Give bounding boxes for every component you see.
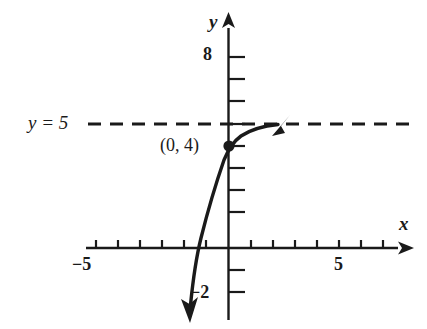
graph-figure: y = 5 (0, 4) y x 8 −2 −5 5 <box>0 0 427 329</box>
point-marker-0-4 <box>223 140 234 151</box>
exponential-curve <box>191 125 279 306</box>
x-axis-arrowhead <box>398 242 414 255</box>
y-tick-label-negative-2: −2 <box>190 283 209 301</box>
y-axis-arrowhead <box>222 12 235 28</box>
coordinate-plane-svg <box>0 0 427 329</box>
x-tick-label-negative-5: −5 <box>72 255 91 273</box>
x-axis-label: x <box>399 214 409 233</box>
y-axis-ticks <box>229 57 246 292</box>
asymptote-label: y = 5 <box>28 113 68 132</box>
y-tick-label-8: 8 <box>203 45 212 63</box>
point-coordinate-label: (0, 4) <box>160 136 199 154</box>
y-axis-label: y <box>209 12 217 31</box>
x-tick-label-5: 5 <box>334 255 343 273</box>
